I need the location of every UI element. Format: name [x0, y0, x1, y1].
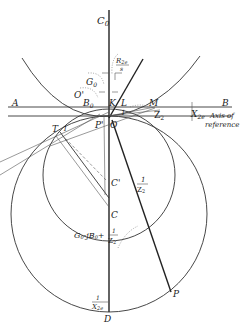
line-Pprime — [104, 116, 105, 195]
label-M: M — [148, 98, 159, 108]
label-B0: B0 — [82, 98, 94, 109]
label-R2e-num: R2e — [115, 57, 127, 65]
label-G0: G0 — [86, 77, 97, 88]
label-B: B — [221, 98, 229, 108]
label-R2e-den: s — [120, 65, 123, 72]
label-K: K — [108, 98, 117, 108]
label-1overX2e-den: X2e — [91, 303, 103, 311]
label-admittance-den: Z2 — [108, 237, 116, 245]
line-O-to-P — [112, 120, 171, 292]
tangent-line-1 — [0, 112, 109, 162]
label-1overZ2-num: 1 — [141, 176, 145, 184]
label-C: C — [111, 210, 118, 220]
label-axis-of-reference-1: Axis of — [209, 112, 235, 120]
circle-diagram: C0 R2e s G0 O' A B B0 K L M 1 Z2 X2e Axi… — [0, 0, 249, 326]
label-O: O — [110, 120, 118, 130]
label-A: A — [11, 98, 19, 108]
line-T-C — [60, 132, 109, 198]
label-Z2: Z2 — [154, 110, 164, 121]
label-C0: C0 — [97, 15, 110, 28]
label-D: D — [103, 314, 111, 324]
label-one-near-T: 1 — [63, 125, 67, 133]
label-X2e: X2e — [190, 109, 205, 120]
label-L: L — [120, 98, 127, 108]
label-admittance-expr: G0-jB0+ — [74, 231, 105, 240]
label-P: P — [172, 289, 180, 299]
label-1overZ2-den: Z2 — [137, 186, 145, 194]
label-T: T — [52, 124, 59, 134]
label-admittance-num: 1 — [112, 227, 116, 234]
line-T-C-2 — [56, 136, 109, 207]
label-P-prime: P' — [94, 120, 104, 130]
label-1overX2e-num: 1 — [96, 294, 100, 301]
label-axis-of-reference-2: reference — [205, 121, 239, 129]
dotted-arc-1overZ2 — [118, 226, 138, 248]
label-one-near-O: 1 — [121, 109, 125, 117]
label-C-prime: C' — [111, 178, 120, 188]
